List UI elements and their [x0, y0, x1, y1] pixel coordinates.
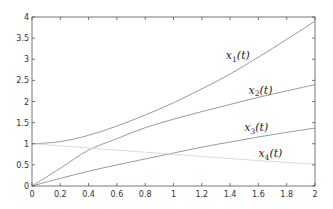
y-tick-label: 0.5: [16, 161, 29, 170]
plot-frame: [32, 17, 315, 186]
y-tick-label: 2.5: [16, 76, 29, 85]
x-tick-label: 0: [29, 190, 34, 199]
y-tick-label: 4: [24, 13, 29, 22]
curve-labels: x1(t)x2(t)x3(t)x4(t): [226, 49, 283, 162]
y-tick-label: 0: [24, 182, 29, 191]
y-tick-label: 2: [24, 98, 29, 107]
x-tick-label: 1: [171, 190, 176, 199]
curve-2: [32, 85, 315, 186]
x-tick-label: 0.6: [111, 190, 124, 199]
y-tick-label: 1.5: [16, 119, 29, 128]
x-tick-label: 1.8: [280, 190, 293, 199]
plot-curves: [32, 21, 315, 186]
curve-1: [32, 21, 315, 144]
x-tick-label: 0.4: [82, 190, 95, 199]
line-chart: 00.20.40.60.811.21.41.61.8200.511.522.53…: [0, 0, 333, 209]
curve-label-4: x4(t): [258, 147, 282, 162]
x-tick-label: 0.2: [54, 190, 67, 199]
y-tick-label: 1: [24, 140, 29, 149]
y-tick-label: 3.5: [16, 34, 29, 43]
x-tick-label: 1.2: [195, 190, 208, 199]
x-tick-label: 0.8: [139, 190, 152, 199]
y-tick-label: 3: [24, 55, 29, 64]
x-tick-label: 2: [312, 190, 317, 199]
curve-label-2: x2(t): [248, 84, 272, 99]
curve-label-1: x1(t): [226, 49, 250, 64]
curve-label-3: x3(t): [244, 121, 268, 136]
x-tick-label: 1.6: [252, 190, 265, 199]
x-tick-label: 1.4: [224, 190, 237, 199]
